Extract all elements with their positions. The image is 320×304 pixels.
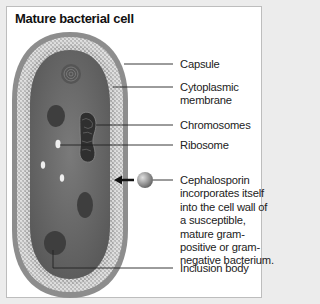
spiral-inclusion [61, 64, 81, 84]
label-cytoplasmic-membrane-line1: Cytoplasmic [180, 81, 239, 94]
ribosome [60, 174, 64, 182]
cephalosporin-molecule [137, 172, 153, 188]
label-chromosomes: Chromosomes [180, 119, 251, 132]
chromosomes [80, 112, 96, 162]
ribosome [41, 161, 45, 169]
label-inclusion-body: Inclusion body [180, 262, 249, 275]
label-cephalosporin-line3: into the cell wall of [180, 201, 267, 214]
label-capsule: Capsule [180, 58, 220, 71]
inclusion-body [47, 105, 65, 127]
label-cephalosporin-line2: incorporates itself [180, 187, 264, 200]
label-cephalosporin-line6: positive or gram- [180, 241, 260, 254]
inclusion-body [44, 231, 66, 255]
label-ribosome: Ribosome [180, 139, 229, 152]
label-cytoplasmic-membrane-line2: membrane [180, 94, 232, 107]
label-cephalosporin-line1: Cephalosporin [180, 174, 250, 187]
ribosome [55, 140, 60, 148]
label-cephalosporin-line4: a susceptible, [180, 214, 246, 227]
inclusion-body [77, 192, 93, 218]
label-cephalosporin-line5: mature gram- [180, 228, 245, 241]
